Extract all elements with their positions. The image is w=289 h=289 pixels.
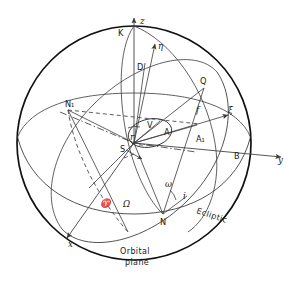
ray-S-to-N1 (68, 110, 134, 143)
label-inclination-i: i (183, 191, 186, 201)
label-xi-vector: ξ (228, 105, 234, 115)
arc-inclination (170, 190, 176, 200)
orbit-direction-arrow (126, 150, 142, 159)
label-A: A (164, 127, 170, 137)
label-omega: ω (165, 179, 172, 189)
label-A1: A₁ (196, 134, 205, 144)
y-axis (134, 143, 281, 157)
label-D: D (137, 62, 143, 72)
diagram-canvas: z y x K η ξ D Q f N₁ V A A₁ B S r ♈ Ω N … (0, 0, 289, 289)
ray-S-to-D (134, 63, 145, 143)
label-Omega: Ω (122, 199, 130, 209)
celestial-sphere-figure: z y x K η ξ D Q f N₁ V A A₁ B S r ♈ Ω N … (0, 0, 289, 289)
label-orbital-plane-line2: plane (125, 258, 149, 267)
label-N: N (160, 217, 166, 227)
label-orbital-plane-line1: Orbital (120, 247, 150, 256)
label-y-axis: y (277, 155, 283, 165)
label-N1: N₁ (65, 99, 74, 109)
label-eta-vector: η (158, 41, 164, 51)
label-ecliptic: Ecliptic (195, 206, 228, 224)
label-x-axis: x (68, 239, 73, 249)
ray-S-to-N (134, 143, 163, 214)
label-aries-symbol: ♈ (100, 198, 113, 208)
label-Q: Q (200, 76, 206, 86)
label-V: V (147, 120, 153, 130)
label-true-anomaly-f: f (195, 105, 201, 115)
label-z-axis: z (139, 16, 145, 26)
label-B: B (234, 151, 240, 161)
label-K: K (118, 28, 124, 38)
ray-S-to-aries (89, 143, 134, 188)
label-S: S (120, 144, 125, 154)
auxiliary-circle-K-D-N (121, 26, 163, 214)
